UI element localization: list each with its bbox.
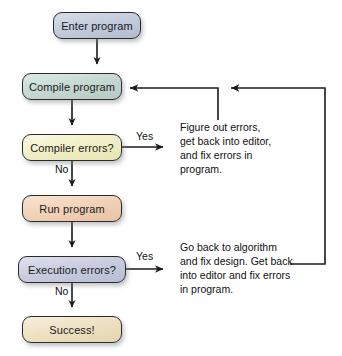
node-run-program-label: Run program [39,203,104,215]
note-compiler-error: Figure out errors, get back into editor,… [180,120,315,176]
edge-label-compiler-errors-no: No [55,163,68,175]
node-enter-program-label: Enter program [61,20,133,32]
node-execution-errors[interactable]: Execution errors? [18,256,126,283]
node-compile-program[interactable]: Compile program [22,73,122,100]
node-success-label: Success! [49,324,94,336]
node-compiler-errors-label: Compiler errors? [30,142,114,154]
edge-label-execution-errors-yes: Yes [136,250,153,262]
node-run-program[interactable]: Run program [22,195,122,222]
connector-compiler-feedback-loop [130,88,218,120]
node-execution-errors-label: Execution errors? [28,264,116,276]
node-compile-program-label: Compile program [29,81,115,93]
edge-label-compiler-errors-yes: Yes [136,130,153,142]
flowchart-connectors [0,0,342,356]
edge-label-execution-errors-no: No [55,285,68,297]
note-execution-error: Go back to algorithm and fix design. Get… [180,240,330,296]
flowchart-canvas: Enter program Compile program Compiler e… [0,0,342,356]
node-enter-program[interactable]: Enter program [53,12,141,39]
node-success[interactable]: Success! [22,316,122,343]
node-compiler-errors[interactable]: Compiler errors? [22,134,122,161]
